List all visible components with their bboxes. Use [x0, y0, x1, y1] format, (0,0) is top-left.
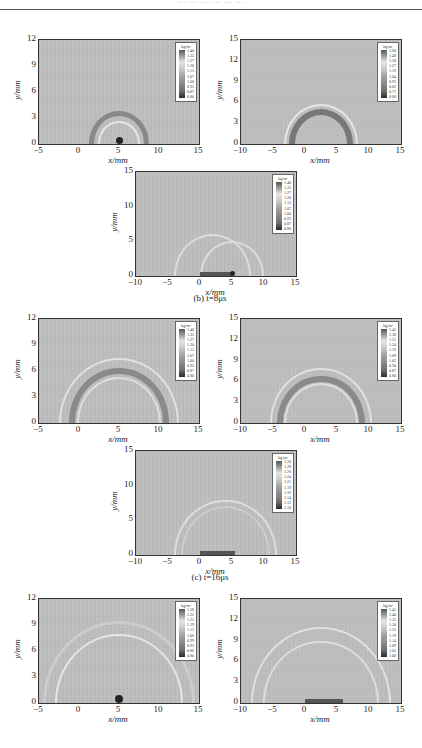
- x-tick-label: −5: [30, 424, 46, 434]
- x-tick-label: −5: [159, 277, 175, 287]
- y-tick-label: 10: [119, 200, 133, 210]
- density-contour-plot: kg/m³1.401.331.271.201.131.071.000.930.8…: [135, 171, 297, 277]
- charge-point: [230, 271, 235, 276]
- colorbar: kg/m³1.381.321.251.191.121.060.990.930.8…: [175, 601, 197, 661]
- header-rule: [0, 9, 422, 10]
- y-tick-label: 3: [22, 670, 36, 680]
- y-tick-label: 5: [119, 513, 133, 523]
- x-tick-label: 0: [296, 424, 312, 434]
- y-axis-label: y/mm: [12, 75, 22, 105]
- density-contour-plot: kg/m³1.451.401.351.301.251.191.141.091.0…: [240, 598, 402, 704]
- y-tick-label: 12: [224, 333, 238, 343]
- x-tick-label: 15: [392, 145, 408, 155]
- colorbar-ticks: 1.601.491.381.271.161.040.930.820.710.60: [389, 49, 396, 99]
- y-tick-label: 3: [224, 675, 238, 685]
- caption-b: (b) t=8μs: [150, 293, 270, 303]
- y-tick-label: 15: [224, 312, 238, 322]
- charge-bar: [200, 551, 235, 555]
- colorbar-ticks: 1.401.331.271.201.131.071.000.930.870.80: [187, 328, 194, 378]
- density-contour-plot: kg/m³1.301.281.261.241.211.191.161.141.1…: [135, 450, 297, 556]
- colorbar: kg/m³1.401.331.271.201.131.071.000.930.8…: [175, 42, 197, 102]
- x-tick-label: 5: [328, 424, 344, 434]
- colorbar-tick-label: 1.13: [187, 348, 194, 352]
- colorbar-ticks: 1.301.281.261.241.211.191.161.141.121.10: [284, 460, 291, 510]
- y-axis-label: y/mm: [214, 634, 224, 664]
- y-tick-label: 6: [224, 95, 238, 105]
- colorbar-tick-label: 1.10: [284, 506, 291, 510]
- colorbar: kg/m³1.451.401.351.301.251.191.141.091.0…: [377, 601, 399, 661]
- colorbar-tick-label: 1.19: [389, 634, 396, 638]
- x-tick-label: 15: [190, 145, 206, 155]
- colorbar-tick-label: 0.80: [187, 95, 194, 99]
- x-tick-label: 0: [70, 424, 86, 434]
- x-tick-label: 10: [360, 424, 376, 434]
- x-tick-label: 5: [223, 556, 239, 566]
- y-tick-label: 15: [224, 592, 238, 602]
- colorbar-tick-label: 1.21: [284, 480, 291, 484]
- x-axis-label: x/mm: [300, 714, 340, 724]
- y-axis-label: y/mm: [109, 486, 119, 516]
- y-tick-label: 6: [22, 85, 36, 95]
- y-tick-label: 6: [22, 644, 36, 654]
- colorbar-gradient: [179, 329, 185, 377]
- x-tick-label: 0: [70, 145, 86, 155]
- x-tick-label: −10: [232, 424, 248, 434]
- x-tick-label: −5: [30, 145, 46, 155]
- x-axis-label: x/mm: [300, 155, 340, 165]
- y-axis-label: y/mm: [12, 634, 22, 664]
- colorbar-gradient: [276, 461, 282, 509]
- x-tick-label: 5: [110, 145, 126, 155]
- charge-point: [116, 137, 123, 144]
- y-tick-label: 6: [224, 374, 238, 384]
- y-tick-label: 9: [22, 59, 36, 69]
- y-tick-label: 12: [22, 312, 36, 322]
- y-tick-label: 3: [22, 390, 36, 400]
- y-tick-label: 15: [119, 165, 133, 175]
- x-axis-label: x/mm: [98, 155, 138, 165]
- y-tick-label: 9: [22, 338, 36, 348]
- charge-bar: [200, 272, 232, 276]
- y-axis-label: y/mm: [214, 354, 224, 384]
- y-tick-label: 3: [22, 111, 36, 121]
- x-tick-label: 0: [296, 704, 312, 714]
- x-tick-label: 5: [223, 277, 239, 287]
- colorbar-tick-label: 1.13: [284, 201, 291, 205]
- colorbar-ticks: 1.451.381.311.241.161.091.020.940.870.80: [389, 328, 396, 378]
- x-tick-label: 15: [392, 704, 408, 714]
- y-axis-label: y/mm: [12, 354, 22, 384]
- x-tick-label: 15: [190, 424, 206, 434]
- x-tick-label: −10: [127, 556, 143, 566]
- x-tick-label: −5: [264, 145, 280, 155]
- y-tick-label: 3: [224, 116, 238, 126]
- colorbar-tick-label: 1.06: [187, 634, 194, 638]
- x-tick-label: 0: [296, 145, 312, 155]
- x-tick-label: 10: [150, 704, 166, 714]
- x-tick-label: 10: [360, 145, 376, 155]
- x-tick-label: 5: [328, 145, 344, 155]
- colorbar-tick-label: 1.00: [389, 654, 396, 658]
- y-tick-label: 6: [22, 364, 36, 374]
- x-tick-label: 10: [150, 145, 166, 155]
- y-tick-label: 5: [119, 234, 133, 244]
- y-tick-label: 9: [22, 618, 36, 628]
- colorbar-gradient: [179, 50, 185, 98]
- density-contour-plot: kg/m³1.601.491.381.271.161.040.930.820.7…: [240, 39, 402, 145]
- y-tick-label: 12: [224, 613, 238, 623]
- x-tick-label: −10: [232, 704, 248, 714]
- x-tick-label: −10: [232, 145, 248, 155]
- colorbar-tick-label: 0.80: [187, 654, 194, 658]
- colorbar-tick-label: 0.80: [284, 227, 291, 231]
- x-tick-label: 15: [287, 277, 303, 287]
- colorbar-gradient: [381, 609, 387, 657]
- x-tick-label: −5: [264, 704, 280, 714]
- colorbar-tick-label: 1.07: [284, 207, 291, 211]
- y-axis-label: y/mm: [109, 207, 119, 237]
- colorbar: kg/m³1.601.491.381.271.161.040.930.820.7…: [377, 42, 399, 102]
- colorbar-tick-label: 1.13: [187, 69, 194, 73]
- density-contour-plot: kg/m³1.381.321.251.191.121.060.990.930.8…: [38, 598, 200, 704]
- colorbar-tick-label: 0.80: [187, 374, 194, 378]
- y-tick-label: 9: [224, 75, 238, 85]
- density-contour-plot: kg/m³1.401.331.271.201.131.071.000.930.8…: [38, 39, 200, 145]
- y-tick-label: 3: [224, 395, 238, 405]
- colorbar: kg/m³1.401.331.271.201.131.071.000.930.8…: [175, 321, 197, 381]
